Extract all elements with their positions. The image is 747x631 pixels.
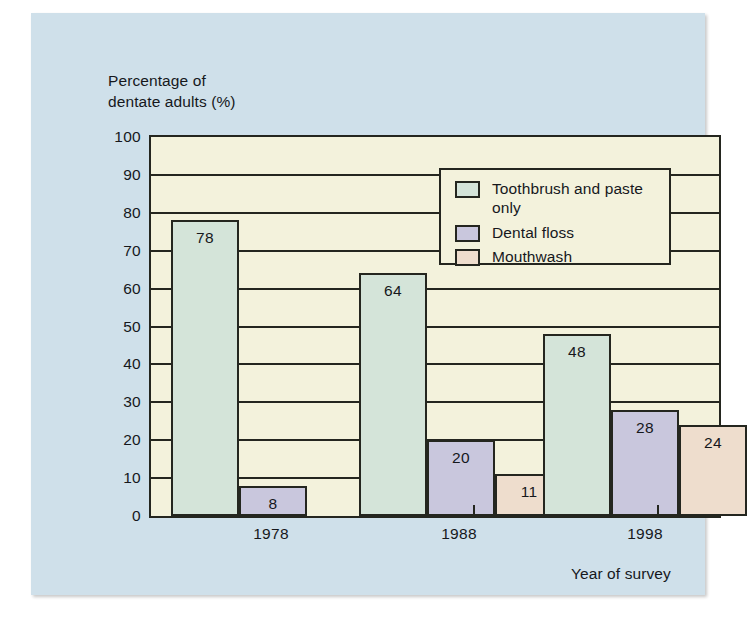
- legend: Toothbrush and paste onlyDental flossMou…: [439, 168, 671, 265]
- legend-item: Dental floss: [455, 223, 669, 242]
- x-tick-label: 1998: [627, 525, 663, 543]
- x-tick-label: 1978: [253, 525, 289, 543]
- bar: 8: [239, 486, 307, 516]
- y-tick-label: 100: [95, 128, 141, 146]
- y-tick-label: 0: [95, 507, 141, 525]
- bar-value-label: 11: [521, 483, 538, 501]
- legend-swatch: [455, 181, 480, 198]
- x-axis-title: Year of survey: [571, 565, 671, 583]
- y-tick-label: 50: [95, 318, 141, 336]
- bar: 20: [427, 440, 495, 516]
- legend-swatch: [455, 249, 480, 266]
- legend-item: Mouthwash: [455, 247, 669, 266]
- bar: 78: [171, 220, 239, 516]
- bar: 24: [679, 425, 747, 516]
- bar-value-label: 8: [269, 495, 278, 513]
- bar-value-label: 28: [636, 419, 654, 437]
- legend-label: Dental floss: [492, 223, 574, 242]
- y-tick-label: 40: [95, 355, 141, 373]
- bar-value-label: 20: [452, 449, 470, 467]
- chart-panel: Percentage of dentate adults (%) 0102030…: [31, 13, 705, 595]
- bar: 48: [543, 334, 611, 516]
- y-tick-label: 30: [95, 393, 141, 411]
- bar: 28: [611, 410, 679, 516]
- x-axis-ticks: 197819881998: [149, 525, 721, 549]
- y-tick-label: 90: [95, 166, 141, 184]
- y-tick-label: 20: [95, 431, 141, 449]
- bar-value-label: 48: [568, 343, 586, 361]
- legend-item: Toothbrush and paste only: [455, 179, 669, 218]
- bar-value-label: 24: [704, 434, 722, 452]
- group-separator-tick: [473, 505, 475, 516]
- y-axis-title: Percentage of dentate adults (%): [108, 70, 236, 113]
- legend-label: Toothbrush and paste only: [492, 179, 643, 218]
- legend-swatch: [455, 225, 480, 242]
- y-tick-label: 80: [95, 204, 141, 222]
- y-tick-label: 10: [95, 469, 141, 487]
- y-tick-label: 60: [95, 280, 141, 298]
- bar-value-label: 64: [384, 282, 402, 300]
- legend-label: Mouthwash: [492, 247, 572, 266]
- bar: 64: [359, 273, 427, 516]
- x-tick-label: 1988: [441, 525, 477, 543]
- y-tick-label: 70: [95, 242, 141, 260]
- group-separator-tick: [657, 505, 659, 516]
- bar-value-label: 78: [196, 229, 214, 247]
- y-axis-ticks: 0102030405060708090100: [93, 135, 141, 518]
